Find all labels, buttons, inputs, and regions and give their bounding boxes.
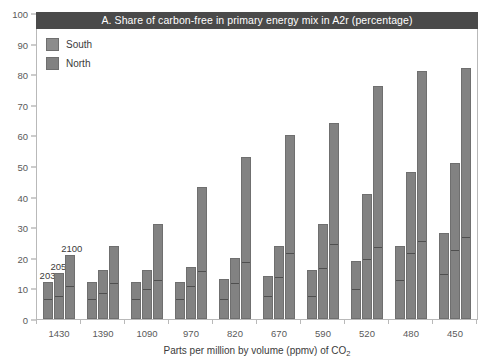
bar-split-line [198, 271, 206, 272]
bar[interactable] [230, 258, 240, 319]
bar-split-line [407, 253, 415, 254]
y-tick-label: 60 [17, 131, 28, 142]
y-tick-mark [31, 105, 36, 106]
y-tick-label: 80 [17, 70, 28, 81]
bar[interactable] [395, 246, 405, 319]
bar-annotation: 2100 [61, 243, 82, 254]
x-tick-label: 820 [227, 328, 243, 339]
bar[interactable] [98, 270, 108, 319]
bar[interactable] [153, 224, 163, 319]
y-tick-mark [31, 167, 36, 168]
y-tick-mark [31, 197, 36, 198]
bar-group [125, 13, 169, 319]
bar[interactable] [186, 267, 196, 319]
bar[interactable] [307, 270, 317, 319]
y-tick-mark [31, 75, 36, 76]
x-tick-mark [212, 320, 213, 324]
bar[interactable] [131, 282, 141, 319]
bar-split-line [352, 289, 360, 290]
x-tick-mark [432, 320, 433, 324]
bar-split-line [44, 299, 52, 300]
y-tick-label: 0 [23, 315, 28, 326]
bar[interactable] [329, 123, 339, 319]
bar-split-line [319, 268, 327, 269]
x-tick-label: 1090 [136, 328, 157, 339]
chart-figure: 0102030405060708090100 A. Share of carbo… [0, 0, 492, 363]
bar-split-line [88, 299, 96, 300]
y-axis: 0102030405060708090100 [0, 12, 36, 320]
bar-split-line [154, 280, 162, 281]
bar[interactable] [461, 68, 471, 319]
x-tick-mark [36, 320, 37, 324]
bar[interactable] [351, 261, 361, 319]
bar[interactable] [417, 71, 427, 319]
bar-split-line [418, 241, 426, 242]
x-tick-mark [80, 320, 81, 324]
bar[interactable] [43, 282, 53, 319]
y-tick-mark [31, 258, 36, 259]
bar-split-line [187, 286, 195, 287]
bar[interactable] [263, 276, 273, 319]
x-tick-label: 450 [447, 328, 463, 339]
bar[interactable] [406, 172, 416, 319]
bar[interactable] [87, 282, 97, 319]
bar[interactable] [439, 233, 449, 319]
x-tick-mark [168, 320, 169, 324]
y-tick-mark [31, 289, 36, 290]
x-tick-label: 970 [183, 328, 199, 339]
bar[interactable] [362, 194, 372, 319]
x-tick-mark [300, 320, 301, 324]
bar[interactable] [219, 279, 229, 319]
bar-split-line [451, 250, 459, 251]
bar[interactable] [197, 187, 207, 319]
bar-split-line [396, 280, 404, 281]
y-tick-mark [31, 136, 36, 137]
bar-split-line [286, 253, 294, 254]
x-tick-mark [124, 320, 125, 324]
x-tick-label: 480 [403, 328, 419, 339]
y-tick-label: 50 [17, 162, 28, 173]
bar[interactable] [109, 246, 119, 319]
bar[interactable] [274, 246, 284, 319]
x-axis-title-subscript: 2 [346, 349, 350, 358]
bar-group [169, 13, 213, 319]
bar[interactable] [450, 163, 460, 319]
y-tick-label: 10 [17, 284, 28, 295]
bar-group [389, 13, 433, 319]
bar-split-line [275, 277, 283, 278]
x-tick-mark [256, 320, 257, 324]
bar-split-line [55, 296, 63, 297]
bar[interactable] [175, 282, 185, 319]
bar-split-line [462, 237, 470, 238]
y-tick-label: 90 [17, 39, 28, 50]
bar-group [257, 13, 301, 319]
bar-split-line [264, 296, 272, 297]
bar-group [301, 13, 345, 319]
bar[interactable] [318, 224, 328, 319]
x-tick-label: 520 [359, 328, 375, 339]
x-axis: 143013901090970820670590520480450 [36, 320, 478, 346]
bar-split-line [176, 299, 184, 300]
bar[interactable] [65, 255, 75, 319]
x-axis-title: Parts per million by volume (ppmv) of CO… [36, 345, 478, 356]
x-tick-label: 1430 [48, 328, 69, 339]
bar-split-line [363, 259, 371, 260]
bar[interactable] [142, 270, 152, 319]
bar-group: 203020502100 [37, 13, 81, 319]
x-tick-mark [388, 320, 389, 324]
bar-split-line [308, 296, 316, 297]
bar-group [433, 13, 477, 319]
y-tick-label: 30 [17, 223, 28, 234]
bar-group [345, 13, 389, 319]
x-tick-label: 670 [271, 328, 287, 339]
bar-split-line [242, 262, 250, 263]
bar[interactable] [241, 157, 251, 319]
y-tick-label: 100 [12, 9, 28, 20]
bar-split-line [66, 286, 74, 287]
bars-layer: 203020502100 [37, 13, 477, 319]
x-tick-label: 1390 [92, 328, 113, 339]
bar[interactable] [285, 135, 295, 319]
x-tick-mark [476, 320, 477, 324]
bar[interactable] [373, 86, 383, 319]
bar[interactable] [54, 273, 64, 319]
